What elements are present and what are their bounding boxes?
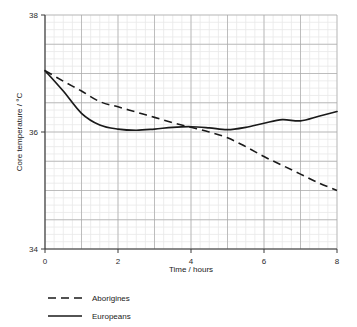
y-tick-label: 34 bbox=[29, 245, 38, 254]
x-tick-label: 0 bbox=[43, 257, 48, 266]
chart-background bbox=[0, 0, 357, 327]
legend-label-aborigines: Aborigines bbox=[92, 294, 130, 303]
x-tick-label: 8 bbox=[335, 257, 340, 266]
y-tick-label: 38 bbox=[29, 11, 38, 20]
y-tick-label: 36 bbox=[29, 128, 38, 137]
legend-label-europeans: Europeans bbox=[92, 312, 131, 321]
core-temperature-line-chart: 343638 02468 Core temperature / °C Time … bbox=[0, 0, 357, 327]
x-axis-title: Time / hours bbox=[169, 265, 213, 274]
x-tick-label: 6 bbox=[262, 257, 267, 266]
x-tick-label: 2 bbox=[116, 257, 121, 266]
y-axis-title: Core temperature / °C bbox=[15, 93, 24, 172]
